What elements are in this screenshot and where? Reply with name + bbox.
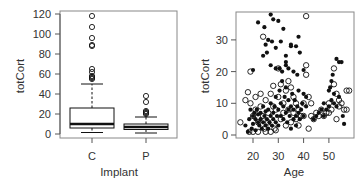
boxplot-x-axis-title: Implant [100,166,139,178]
data-point-filled [279,39,283,43]
data-point-filled [331,73,335,77]
data-point-open [260,34,265,39]
data-point-filled [286,98,290,102]
figure: 020406080100120 CP totCort Implant 01020… [0,0,364,185]
data-point-filled [281,104,285,108]
data-point-open [248,101,253,106]
data-point-filled [295,104,299,108]
data-point-open [263,129,268,134]
data-point-filled [289,127,293,131]
data-point-open [303,63,308,68]
data-point-filled [261,54,265,58]
data-point-filled [266,108,270,112]
data-point-filled [289,44,293,48]
y-tick-label: 120 [33,8,51,20]
boxplot-boxes [70,13,168,133]
data-point-filled [294,44,298,48]
data-point-open [272,126,277,131]
data-point-open [258,91,263,96]
y-tick-label: 0 [222,129,228,141]
data-point-filled [283,95,287,99]
data-point-filled [295,73,299,77]
y-tick-label: 0 [45,128,51,140]
data-point-open [271,83,276,88]
data-point-filled [269,63,273,67]
data-point-filled [291,108,295,112]
y-tick-label: 100 [33,28,51,40]
data-point-filled [281,27,285,31]
data-point-filled [291,70,295,74]
x-tick-label: P [142,150,149,162]
data-point-open [308,101,313,106]
data-point-filled [284,60,288,64]
data-point-filled [264,43,268,47]
data-point-filled [276,19,280,23]
data-point-filled [274,46,278,50]
data-point-filled [262,25,266,29]
data-point-filled [298,50,302,54]
x-tick-label: 40 [297,150,309,162]
data-point-filled [266,38,270,42]
data-point-open [331,82,336,87]
y-tick-label: 10 [216,97,228,109]
outlier-point [89,35,94,40]
data-point-filled [269,12,273,16]
data-point-filled [284,54,288,58]
data-point-filled [286,66,290,70]
data-point-filled [280,79,284,83]
y-tick-label: 30 [216,34,228,46]
data-point-filled [342,122,346,126]
data-point-open [238,120,243,125]
x-tick-label: 20 [247,150,259,162]
data-point-filled [256,20,260,24]
x-tick-label: C [88,150,96,162]
data-point-open [263,97,268,102]
data-point-filled [248,108,252,112]
outlier-point [143,99,148,104]
data-point-filled [284,85,288,89]
data-point-open [288,85,293,90]
data-point-open [303,13,308,18]
data-point-open [331,66,336,71]
data-point-filled [293,98,297,102]
outlier-point [89,24,94,29]
data-point-filled [243,123,247,127]
boxplot-panel: 020406080100120 CP totCort Implant [14,8,177,178]
data-point-open [334,116,339,121]
data-point-filled [271,17,275,21]
outlier-point [143,93,148,98]
data-point-filled [277,89,281,93]
data-point-filled [265,50,269,54]
box-C [70,13,114,132]
data-point-filled [341,114,345,118]
data-point-filled [290,92,294,96]
data-point-open [268,91,273,96]
x-tick-label: 50 [323,150,335,162]
y-tick-label: 60 [39,68,51,80]
boxplot-x-ticks: CP [88,138,150,162]
data-point-filled [296,89,300,93]
data-point-open [286,78,291,83]
data-point-open [243,97,248,102]
data-point-filled [251,122,255,126]
y-tick-label: 20 [216,66,228,78]
data-point-filled [296,35,300,39]
box-P [124,93,168,133]
boxplot-y-axis-title: totCort [14,58,26,93]
data-point-filled [322,101,326,105]
y-tick-label: 20 [39,108,51,120]
data-point-open [306,126,311,131]
data-point-open [273,128,278,133]
scatter-points [238,12,352,134]
data-point-filled [302,68,306,72]
y-tick-label: 40 [39,88,51,100]
data-point-filled [319,108,323,112]
scatter-x-axis-title: Age [284,166,304,178]
scatter-x-ticks: 20304050 [247,138,335,162]
data-point-filled [339,60,343,64]
boxplot-y-ticks: 020406080100120 [33,8,60,140]
scatter-panel: 0102030 20304050 totCort Age [199,12,354,178]
x-tick-label: 30 [272,150,284,162]
outlier-point [89,13,94,18]
data-point-open [253,94,258,99]
